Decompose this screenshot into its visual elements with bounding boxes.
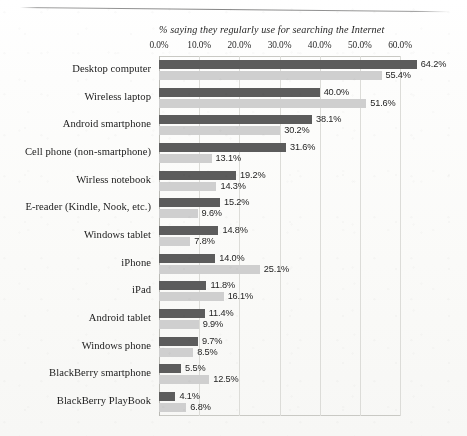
value-label-us-12: 6.8%: [190, 402, 210, 412]
category-label: Cell phone (non-smartphone): [25, 146, 151, 157]
category-label: E-reader (Kindle, Nook, etc.): [25, 201, 151, 212]
bar-us-7: [159, 265, 260, 274]
value-label-us-3: 13.1%: [216, 153, 241, 163]
bar-us-0: [159, 71, 382, 80]
bar-us-9: [159, 320, 199, 329]
bar-china-8: [159, 281, 206, 290]
category-label: Wireless laptop: [84, 91, 151, 102]
value-label-china-9: 11.4%: [209, 308, 234, 318]
bar-row: Android tablet11.4%9.9%: [159, 305, 400, 333]
bar-us-2: [159, 126, 280, 135]
value-label-us-4: 14.3%: [220, 181, 245, 191]
category-label: Wirless notebook: [76, 174, 151, 185]
bar-row: iPhone14.0%25.1%: [159, 250, 400, 278]
value-label-us-0: 55.4%: [386, 70, 411, 80]
value-label-china-10: 9.7%: [202, 336, 222, 346]
value-label-china-11: 5.5%: [185, 363, 205, 373]
bar-china-7: [159, 254, 215, 263]
value-label-china-0: 64.2%: [421, 59, 446, 69]
category-label: Android smartphone: [63, 118, 151, 129]
category-label: BlackBerry PlayBook: [57, 395, 151, 406]
value-label-china-8: 11.8%: [210, 280, 235, 290]
value-label-china-12: 4.1%: [179, 391, 199, 401]
bar-us-3: [159, 154, 212, 163]
bar-china-6: [159, 226, 218, 235]
value-label-china-2: 38.1%: [316, 114, 341, 124]
category-label: Windows tablet: [84, 229, 151, 240]
category-label: iPad: [132, 284, 151, 295]
bar-china-11: [159, 364, 181, 373]
value-label-us-10: 8.5%: [197, 347, 217, 357]
plot-area: Desktop computer64.2%55.4%Wireless lapto…: [159, 56, 400, 416]
bar-us-4: [159, 182, 216, 191]
value-label-china-1: 40.0%: [324, 87, 349, 97]
bar-us-11: [159, 375, 209, 384]
value-label-us-6: 7.8%: [194, 236, 214, 246]
bar-row: BlackBerry PlayBook4.1%6.8%: [159, 388, 400, 416]
value-label-china-6: 14.8%: [222, 225, 247, 235]
bar-row: Android smartphone38.1%30.2%: [159, 111, 400, 139]
bar-row: E-reader (Kindle, Nook, etc.)15.2%9.6%: [159, 194, 400, 222]
category-label: Desktop computer: [72, 63, 151, 74]
value-label-us-7: 25.1%: [264, 264, 289, 274]
bar-china-9: [159, 309, 205, 318]
grouped-bar-chart: % saying they regularly use for searchin…: [0, 0, 467, 436]
x-tick-label-3: 30.0%: [268, 40, 292, 50]
x-tick-label-1: 10.0%: [187, 40, 211, 50]
bar-us-10: [159, 348, 193, 357]
bar-china-0: [159, 60, 417, 69]
value-label-china-5: 15.2%: [224, 197, 249, 207]
bar-row: Wireless laptop40.0%51.6%: [159, 84, 400, 112]
bar-row: Windows phone9.7%8.5%: [159, 333, 400, 361]
bar-us-6: [159, 237, 190, 246]
value-label-us-9: 9.9%: [203, 319, 223, 329]
bar-us-1: [159, 99, 366, 108]
bar-china-3: [159, 143, 286, 152]
bar-us-12: [159, 403, 186, 412]
category-label: Windows phone: [82, 340, 151, 351]
category-label: iPhone: [121, 257, 151, 268]
value-label-us-5: 9.6%: [202, 208, 222, 218]
bar-row: BlackBerry smartphone5.5%12.5%: [159, 361, 400, 389]
bar-us-8: [159, 292, 224, 301]
gridline-6: [400, 56, 401, 416]
x-tick-label-4: 40.0%: [308, 40, 332, 50]
x-tick-label-6: 60.0%: [388, 40, 412, 50]
bar-china-2: [159, 115, 312, 124]
bar-row: iPad11.8%16.1%: [159, 278, 400, 306]
x-tick-label-0: 0.0%: [149, 40, 168, 50]
value-label-china-3: 31.6%: [290, 142, 315, 152]
category-label: BlackBerry smartphone: [49, 367, 151, 378]
bar-china-4: [159, 171, 236, 180]
chart-subtitle: % saying they regularly use for searchin…: [159, 24, 419, 35]
value-label-china-4: 19.2%: [240, 170, 265, 180]
value-label-us-1: 51.6%: [370, 98, 395, 108]
bar-row: Windows tablet14.8%7.8%: [159, 222, 400, 250]
bar-china-10: [159, 337, 198, 346]
value-label-us-11: 12.5%: [213, 374, 238, 384]
bar-row: Wirless notebook19.2%14.3%: [159, 167, 400, 195]
value-label-us-8: 16.1%: [228, 291, 253, 301]
category-label: Android tablet: [89, 312, 151, 323]
bar-china-1: [159, 88, 320, 97]
bar-row: Cell phone (non-smartphone)31.6%13.1%: [159, 139, 400, 167]
x-tick-label-5: 50.0%: [348, 40, 372, 50]
bar-china-5: [159, 198, 220, 207]
value-label-us-2: 30.2%: [284, 125, 309, 135]
value-label-china-7: 14.0%: [219, 253, 244, 263]
bar-china-12: [159, 392, 175, 401]
bar-us-5: [159, 209, 198, 218]
bar-row: Desktop computer64.2%55.4%: [159, 56, 400, 84]
x-tick-label-2: 20.0%: [227, 40, 251, 50]
